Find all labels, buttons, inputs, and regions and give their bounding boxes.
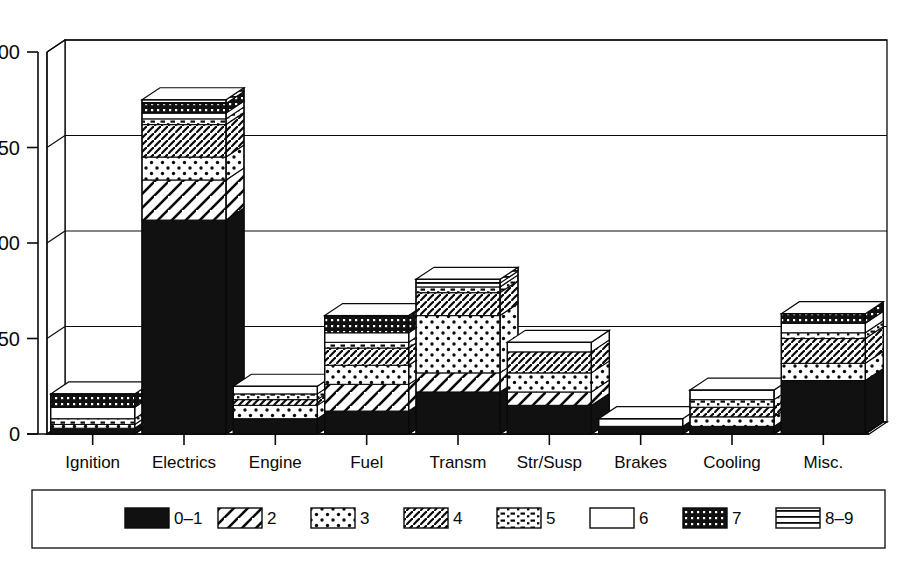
legend-item: 6 bbox=[590, 508, 648, 528]
bar-segment bbox=[51, 428, 135, 434]
bar-segment bbox=[142, 220, 226, 434]
legend-label: 5 bbox=[546, 509, 555, 528]
legend-label: 8–9 bbox=[825, 509, 853, 528]
bar-segment bbox=[233, 386, 317, 394]
bar-segment bbox=[142, 119, 226, 125]
bar-column bbox=[233, 374, 335, 434]
bar-segment bbox=[142, 180, 226, 220]
bar-column bbox=[781, 302, 883, 434]
x-axis-category-label: Cooling bbox=[703, 453, 761, 472]
bar-top-face bbox=[325, 304, 427, 316]
bar-segment bbox=[599, 419, 683, 427]
bar-segment bbox=[690, 417, 774, 427]
bar-segment bbox=[507, 392, 591, 405]
bar-segment bbox=[507, 405, 591, 434]
bar-segment bbox=[233, 400, 317, 406]
legend-swatch bbox=[311, 508, 355, 528]
bar-segment bbox=[507, 352, 591, 373]
bar-segment bbox=[781, 339, 865, 364]
x-axis-category-label: Transm bbox=[430, 453, 487, 472]
legend-swatch bbox=[404, 508, 448, 528]
bar-segment bbox=[142, 113, 226, 119]
x-axis-category-label: Fuel bbox=[350, 453, 383, 472]
y-axis-tick-label: 100 bbox=[0, 232, 20, 254]
chart-legend: 0–12345678–9 bbox=[32, 490, 885, 548]
bar-column bbox=[51, 382, 153, 434]
bar-column bbox=[599, 407, 701, 434]
bar-column bbox=[690, 378, 792, 434]
y-axis-tick-label: 200 bbox=[0, 41, 20, 63]
bar-segment bbox=[690, 407, 774, 417]
bar-segment bbox=[325, 384, 409, 411]
legend-swatch bbox=[218, 508, 262, 528]
bar-segment bbox=[233, 419, 317, 434]
legend-label: 4 bbox=[453, 509, 462, 528]
bar-segment bbox=[599, 426, 683, 434]
x-axis-category-label: Ignition bbox=[65, 453, 120, 472]
bar-top-face bbox=[781, 302, 883, 314]
chart-container: 050100150200 IgnitionElectricsEngineFuel… bbox=[0, 0, 917, 570]
legend-swatch bbox=[497, 508, 541, 528]
bar-segment bbox=[51, 407, 135, 418]
bar-segment bbox=[416, 293, 500, 316]
bar-column bbox=[142, 88, 244, 434]
legend-swatch bbox=[590, 508, 634, 528]
bar-segment bbox=[233, 394, 317, 400]
bar-segment bbox=[781, 323, 865, 333]
bar-top-face bbox=[690, 378, 792, 390]
bar-segment bbox=[690, 390, 774, 400]
y-axis-tick-label: 0 bbox=[9, 423, 20, 445]
bar-column bbox=[416, 267, 518, 434]
legend-item: 3 bbox=[311, 508, 369, 528]
y-axis-tick-label: 150 bbox=[0, 137, 20, 159]
bar-segment bbox=[416, 392, 500, 434]
legend-item: 5 bbox=[497, 508, 555, 528]
legend-item: 2 bbox=[218, 508, 276, 528]
bar-top-face bbox=[599, 407, 701, 419]
bar-segment bbox=[325, 411, 409, 434]
bar-segment bbox=[142, 157, 226, 180]
bar-segment bbox=[416, 283, 500, 287]
bar-column bbox=[325, 304, 427, 434]
x-axis: IgnitionElectricsEngineFuelTransmStr/Sus… bbox=[65, 434, 843, 472]
bar-segment bbox=[51, 394, 135, 407]
bar-top-face bbox=[51, 382, 153, 394]
bar-segment bbox=[325, 316, 409, 333]
bar-top-face bbox=[142, 88, 244, 100]
bar-segment bbox=[690, 426, 774, 434]
y-axis-tick-label: 50 bbox=[0, 328, 20, 350]
bar-segment bbox=[233, 405, 317, 418]
x-axis-category-label: Str/Susp bbox=[517, 453, 582, 472]
bar-segment bbox=[781, 333, 865, 339]
x-axis-category-label: Misc. bbox=[803, 453, 843, 472]
legend-item: 4 bbox=[404, 508, 462, 528]
bar-segment bbox=[781, 381, 865, 434]
bar-segment bbox=[781, 363, 865, 380]
bar-top-face bbox=[507, 330, 609, 342]
bar-top-face bbox=[416, 267, 518, 279]
legend-item: 0–1 bbox=[125, 508, 202, 528]
legend-label: 2 bbox=[267, 509, 276, 528]
bar-segment bbox=[507, 373, 591, 392]
legend-label: 7 bbox=[732, 509, 741, 528]
bar-segment bbox=[690, 400, 774, 408]
legend-label: 0–1 bbox=[174, 509, 202, 528]
bar-segment bbox=[325, 342, 409, 348]
legend-swatch bbox=[683, 508, 727, 528]
bar-top-face bbox=[233, 374, 335, 386]
legend-swatch bbox=[125, 508, 169, 528]
bar-segment bbox=[325, 348, 409, 365]
legend-swatch bbox=[776, 508, 820, 528]
bar-segment bbox=[142, 125, 226, 157]
x-axis-category-label: Electrics bbox=[152, 453, 216, 472]
legend-item: 7 bbox=[683, 508, 741, 528]
bar-segment bbox=[51, 419, 135, 425]
bar-segment bbox=[142, 104, 226, 114]
bar-segment bbox=[416, 373, 500, 392]
legend-label: 3 bbox=[360, 509, 369, 528]
legend-label: 6 bbox=[639, 509, 648, 528]
bar-segment bbox=[416, 287, 500, 293]
bar-segment bbox=[325, 333, 409, 343]
x-axis-category-label: Brakes bbox=[614, 453, 667, 472]
bar-segment bbox=[416, 316, 500, 373]
